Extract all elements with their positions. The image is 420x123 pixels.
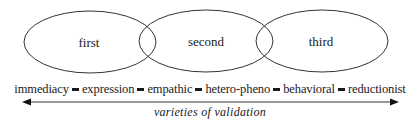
scale-item-behavioral: behavioral (283, 82, 335, 96)
separator-icon (273, 88, 280, 91)
scale-item-reductionist: reductionist (348, 82, 406, 96)
scale-item-empathic: empathic (147, 82, 192, 96)
caption: varieties of validation (0, 105, 420, 120)
scale-item-immediacy: immediacy (14, 82, 69, 96)
scale-item-hetero-pheno: hetero-pheno (205, 82, 270, 96)
separator-icon (338, 88, 345, 91)
separator-icon (72, 88, 79, 91)
scale-item-expression: expression (82, 82, 134, 96)
separator-icon (195, 88, 202, 91)
circle-label-second: second (188, 34, 224, 50)
validation-scale: immediacyexpressionempathichetero-phenob… (0, 82, 420, 97)
separator-icon (137, 88, 144, 91)
circle-label-third: third (309, 34, 334, 50)
circle-label-first: first (79, 35, 100, 51)
